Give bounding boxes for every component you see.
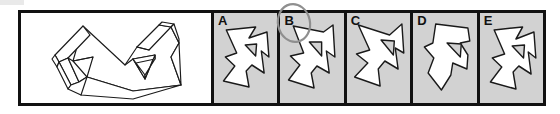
option-panel-e[interactable]: E (477, 13, 543, 103)
silhouette-shape (289, 25, 335, 88)
option-label-d: D (417, 14, 426, 28)
reference-figure-svg (21, 13, 211, 103)
silhouette-shape (490, 27, 535, 89)
silhouette-shape (223, 27, 268, 87)
option-panel-c[interactable]: C (344, 13, 410, 103)
reference-wireframe (52, 22, 181, 99)
silhouette-shape (354, 24, 403, 86)
option-label-c: C (351, 14, 360, 28)
answer-strip: A B C (18, 10, 546, 106)
option-panel-b[interactable]: B (277, 13, 343, 103)
silhouette-shape (425, 24, 470, 90)
reference-panel (21, 13, 211, 103)
scan-artifact (0, 0, 24, 5)
option-label-a: A (218, 14, 227, 28)
option-panel-d[interactable]: D (410, 13, 476, 103)
option-label-e: E (484, 14, 493, 28)
option-label-b: B (284, 14, 293, 28)
option-panel-a[interactable]: A (211, 13, 277, 103)
spatial-reasoning-test-item: A B C (0, 0, 560, 114)
